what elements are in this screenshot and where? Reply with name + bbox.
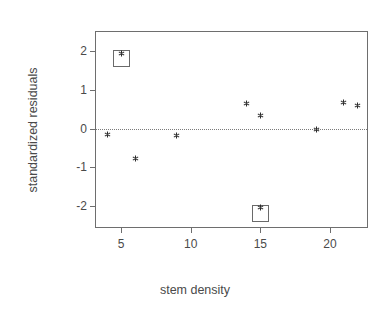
data-point [173,132,180,139]
x-tick-label-10: 10 [184,237,197,251]
x-tick-label-5: 5 [118,237,125,251]
y-tick-label--1: -1 [76,160,87,174]
scatter-plot-figure: standardized residuals 210-1-2 5101520 s… [0,0,390,312]
data-point [257,112,264,119]
y-axis-title-text: standardized residuals [26,67,40,192]
y-axis-title: standardized residuals [24,31,42,228]
x-tick-label-20: 20 [323,237,336,251]
x-axis-title: stem density [0,283,390,297]
x-tick-20 [330,227,331,233]
x-tick-15 [260,227,261,233]
data-point [313,126,320,133]
data-point [132,155,139,162]
data-point [354,102,361,109]
data-point [104,131,111,138]
y-tick-label--2: -2 [76,199,87,213]
outlier-box-low [252,205,269,222]
x-tick-5 [121,227,122,233]
data-points-layer [96,32,367,227]
x-tick-10 [191,227,192,233]
plot-area: 210-1-2 5101520 [95,31,368,228]
data-point [243,100,250,107]
y-tick-label-2: 2 [80,44,87,58]
data-point [340,99,347,106]
y-tick-label-0: 0 [80,122,87,136]
x-tick-label-15: 15 [254,237,267,251]
y-tick-label-1: 1 [80,83,87,97]
outlier-box-high [113,50,130,67]
